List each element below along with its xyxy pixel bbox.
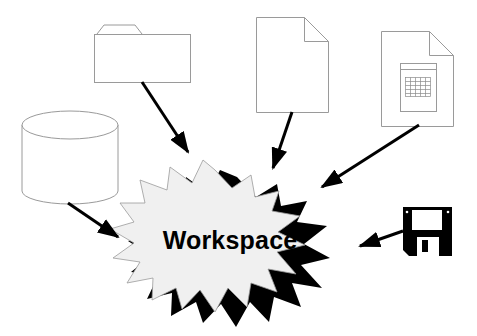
arrow-folder-to-workspace [142,82,188,152]
arrow-document-to-workspace [273,112,292,168]
workspace-label: Workspace [160,222,300,258]
spreadsheet-document-icon [382,32,454,127]
database-cylinder-icon [22,111,118,204]
folder-icon [95,25,191,83]
arrow-database-to-workspace [68,203,118,237]
workspace-diagram [0,0,477,336]
arrow-spreadsheet-to-workspace [322,125,419,187]
floppy-disk-icon [403,207,452,256]
document-icon [257,18,329,113]
arrow-floppy-to-workspace [360,231,403,246]
